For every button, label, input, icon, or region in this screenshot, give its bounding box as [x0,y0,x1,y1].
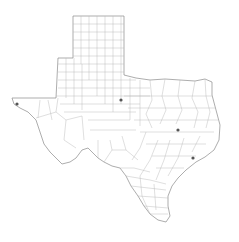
state-outline [12,16,220,222]
map-marker[interactable] [119,98,122,101]
map-marker[interactable] [15,102,18,105]
texas-county-map [0,0,239,242]
map-marker[interactable] [191,156,194,159]
map-marker[interactable] [176,128,179,131]
